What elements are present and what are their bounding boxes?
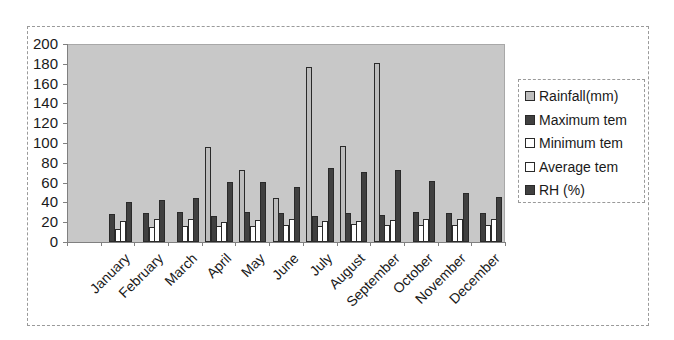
bar-rh (395, 170, 401, 242)
y-tick-mark (63, 123, 67, 124)
legend-swatch-icon (525, 115, 535, 125)
legend-label: Rainfall(mm) (539, 88, 618, 104)
x-tick-mark (101, 242, 102, 246)
legend-swatch-icon (525, 91, 535, 101)
legend-label: Minimum tem (539, 135, 623, 151)
x-tick-mark (202, 242, 203, 246)
y-tick-mark (63, 183, 67, 184)
legend-label: Average tem (539, 159, 618, 175)
y-tick-label: 80 (28, 155, 58, 170)
legend-label: Maximum tem (539, 112, 627, 128)
x-tick-mark (505, 242, 506, 246)
bar-rh (361, 172, 367, 242)
y-axis (67, 44, 68, 242)
y-tick-mark (63, 64, 67, 65)
x-tick-mark (438, 242, 439, 246)
bar-rh (429, 181, 435, 242)
y-tick-mark (63, 84, 67, 85)
legend-item: RH (%) (525, 180, 585, 200)
y-tick-mark (63, 44, 67, 45)
legend: Rainfall(mm)Maximum temMinimum temAverag… (518, 79, 645, 203)
x-tick-mark (168, 242, 169, 246)
y-tick-label: 120 (28, 115, 58, 130)
y-tick-label: 160 (28, 76, 58, 91)
y-tick-label: 20 (28, 214, 58, 229)
y-tick-mark (63, 163, 67, 164)
bar-rh (463, 193, 469, 242)
x-tick-mark (134, 242, 135, 246)
bar-rh (260, 182, 266, 242)
x-tick-mark (471, 242, 472, 246)
legend-item: Minimum tem (525, 133, 623, 153)
x-tick-mark (235, 242, 236, 246)
x-tick-mark (370, 242, 371, 246)
legend-swatch-icon (525, 162, 535, 172)
y-tick-label: 200 (28, 36, 58, 51)
x-axis (67, 242, 505, 243)
x-tick-mark (269, 242, 270, 246)
y-tick-mark (63, 143, 67, 144)
y-tick-mark (63, 222, 67, 223)
bar-rh (126, 202, 132, 242)
x-tick-mark (67, 242, 68, 246)
x-tick-mark (337, 242, 338, 246)
y-tick-label: 40 (28, 194, 58, 209)
legend-item: Maximum tem (525, 110, 627, 130)
x-tick-mark (404, 242, 405, 246)
legend-swatch-icon (525, 185, 535, 195)
plot-area (67, 44, 505, 242)
y-tick-label: 180 (28, 56, 58, 71)
legend-swatch-icon (525, 138, 535, 148)
bar-rh (227, 182, 233, 242)
bar-rh (193, 198, 199, 242)
x-tick-mark (303, 242, 304, 246)
legend-item: Rainfall(mm) (525, 86, 618, 106)
y-tick-label: 100 (28, 135, 58, 150)
y-tick-mark (63, 103, 67, 104)
y-tick-label: 0 (28, 234, 58, 249)
bar-rh (328, 168, 334, 242)
y-tick-label: 140 (28, 95, 58, 110)
legend-item: Average tem (525, 157, 618, 177)
bar-rh (496, 197, 502, 242)
bar-rh (159, 200, 165, 242)
bar-rh (294, 187, 300, 242)
y-tick-mark (63, 202, 67, 203)
legend-label: RH (%) (539, 182, 585, 198)
y-tick-label: 60 (28, 175, 58, 190)
